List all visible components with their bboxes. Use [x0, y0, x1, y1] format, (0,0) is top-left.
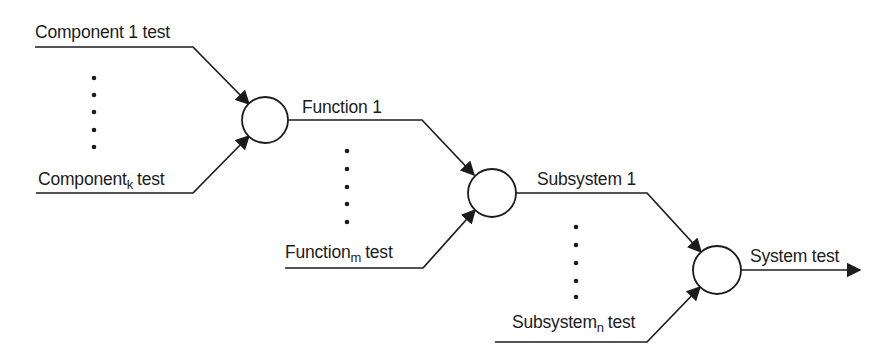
ellipsis-dot [574, 279, 579, 284]
testing-stages-diagram: Component 1 test Componentktest Function… [0, 0, 887, 362]
ellipsis-dot [345, 185, 350, 190]
ellipsis-dot [574, 243, 579, 248]
ellipsis-dot [92, 110, 97, 115]
ellipsis-dot [574, 261, 579, 266]
label-subsystem-n-test: Subsystemntest [512, 312, 636, 335]
label-subsystem-1: Subsystem 1 [537, 169, 636, 189]
system-junction-node [693, 246, 741, 294]
label-system-test: System test [750, 246, 840, 266]
label-component-k-test: Componentktest [38, 169, 165, 192]
arrow-subsystem-1-flow [516, 193, 701, 252]
label-subscript: n [597, 320, 604, 335]
diagram-canvas: Component 1 test Componentktest Function… [0, 0, 887, 362]
label-component-1-test: Component 1 test [35, 22, 170, 42]
ellipsis-dot [574, 295, 579, 300]
arrow-component-1-input [35, 47, 249, 104]
label-function-1: Function 1 [302, 97, 382, 117]
ellipsis-dot [345, 220, 350, 225]
ellipsis-functions [345, 149, 350, 225]
function-junction-node [242, 97, 288, 143]
label-text: Subsystem [512, 312, 597, 332]
label-text: test [137, 169, 165, 189]
label-text: test [608, 312, 636, 332]
ellipsis-dot [92, 145, 97, 150]
label-subscript: m [351, 250, 362, 265]
ellipsis-subsystems [574, 225, 579, 300]
label-text: Function [285, 242, 351, 262]
ellipsis-dot [345, 167, 350, 172]
junction-nodes [242, 97, 741, 294]
ellipsis-dot [345, 149, 350, 154]
label-subscript: k [127, 177, 134, 192]
label-function-m-test: Functionmtest [285, 242, 393, 265]
label-text: Component [38, 169, 127, 189]
flow-arrows [35, 47, 860, 342]
ellipsis-dot [92, 76, 97, 81]
ellipsis-components [92, 76, 97, 150]
ellipsis-dot [92, 93, 97, 98]
ellipsis-dot [92, 128, 97, 133]
subsystem-junction-node [468, 169, 516, 217]
arrow-function-1-flow [288, 120, 474, 175]
label-text: test [365, 242, 393, 262]
ellipsis-dot [345, 202, 350, 207]
ellipsis-dot [574, 225, 579, 230]
